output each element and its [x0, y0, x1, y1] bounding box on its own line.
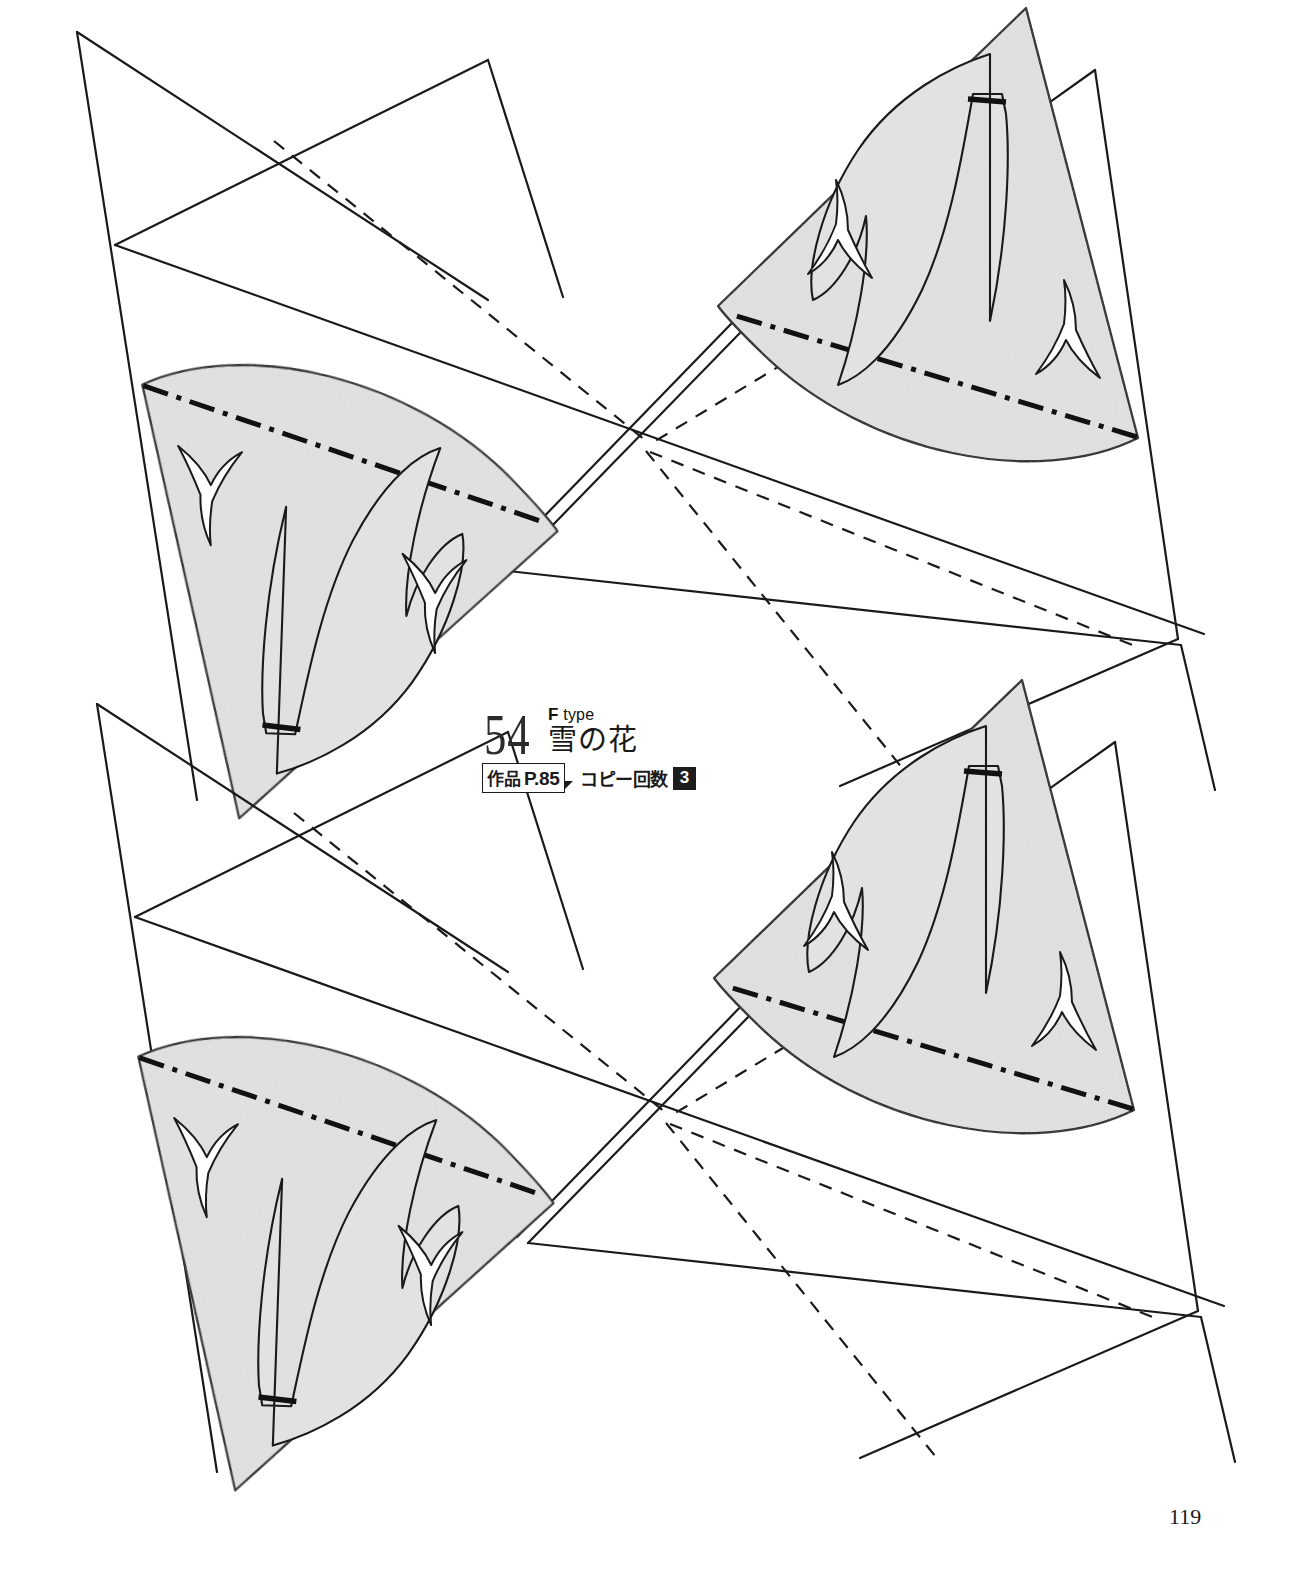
- pattern-type-word: type: [563, 706, 594, 723]
- upper-right-wedge: [718, 8, 1138, 461]
- work-reference-label: 作品: [487, 765, 521, 790]
- pattern-sheet: 54 F type 雪の花 作品 P.85 コピー回数 3 119: [0, 0, 1301, 1593]
- work-reference-box: 作品 P.85: [482, 763, 565, 793]
- page-number: 119: [1169, 1504, 1201, 1530]
- pattern-meta-row: 作品 P.85 コピー回数 3: [482, 763, 784, 793]
- copies-count-badge: 3: [673, 767, 696, 790]
- pattern-number: 54: [484, 712, 530, 758]
- lower-left-wedge: [123, 1033, 559, 1501]
- work-reference-page: P.85: [524, 768, 559, 790]
- work-reference-pointer: [564, 781, 573, 790]
- pattern-name: 雪の花: [548, 724, 638, 756]
- pattern-type-letter: F: [548, 705, 559, 724]
- copies-label: コピー回数: [580, 765, 668, 791]
- lower-unit: [97, 680, 1235, 1501]
- pattern-type: F type: [548, 706, 638, 723]
- title-block: 54 F type 雪の花 作品 P.85 コピー回数 3: [484, 706, 784, 802]
